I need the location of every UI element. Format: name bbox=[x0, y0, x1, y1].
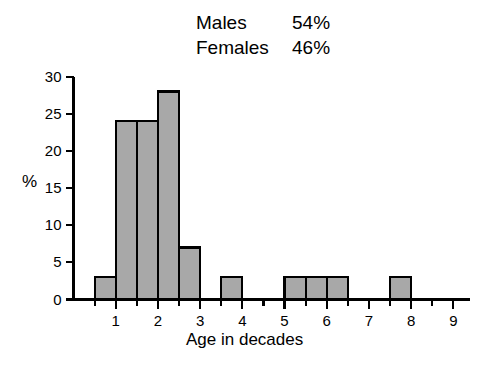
bar bbox=[390, 277, 411, 299]
bar bbox=[306, 277, 327, 299]
y-tick-label: 10 bbox=[36, 216, 62, 233]
bar bbox=[327, 277, 348, 299]
bar bbox=[95, 277, 116, 299]
y-tick-label: 15 bbox=[36, 179, 62, 196]
y-tick-label: 30 bbox=[36, 68, 62, 85]
x-tick-label: 3 bbox=[190, 312, 210, 329]
bar bbox=[179, 247, 200, 299]
x-tick-label: 9 bbox=[443, 312, 463, 329]
bars-group bbox=[95, 91, 412, 299]
y-tick-label: 25 bbox=[36, 105, 62, 122]
x-tick-label: 7 bbox=[359, 312, 379, 329]
bar bbox=[285, 277, 306, 299]
x-tick-label: 6 bbox=[317, 312, 337, 329]
bar bbox=[116, 121, 137, 299]
y-tick-label: 5 bbox=[36, 253, 62, 270]
y-tick-label: 20 bbox=[36, 142, 62, 159]
x-tick-label: 4 bbox=[232, 312, 252, 329]
x-tick-label: 5 bbox=[275, 312, 295, 329]
x-tick-label: 1 bbox=[106, 312, 126, 329]
x-tick-label: 8 bbox=[401, 312, 421, 329]
bar bbox=[158, 91, 179, 299]
y-tick-label: 0 bbox=[36, 291, 62, 308]
bar bbox=[221, 277, 242, 299]
x-tick-label: 2 bbox=[148, 312, 168, 329]
histogram-figure: Males 54% Females 46% % Age in decades 0… bbox=[0, 0, 491, 366]
bar bbox=[137, 121, 158, 299]
